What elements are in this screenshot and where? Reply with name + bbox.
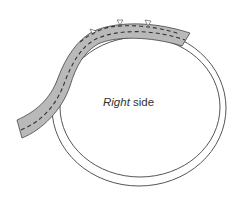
bias-binding-diagram: Right side: [0, 0, 237, 197]
label-rest: side: [130, 96, 154, 108]
right-side-label: Right side: [103, 96, 154, 108]
label-italic: Right: [103, 96, 131, 108]
binding-strip: [17, 24, 190, 138]
